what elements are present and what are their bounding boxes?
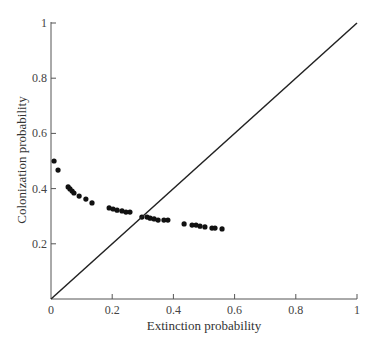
data-point: [197, 224, 202, 229]
data-point: [202, 224, 207, 229]
x-axis-label: Extinction probability: [147, 318, 261, 334]
data-point: [55, 168, 60, 173]
data-point: [83, 196, 88, 201]
x-tick-label: 0.8: [288, 304, 303, 316]
x-tick-label: 0.4: [166, 304, 181, 316]
plot-area: [51, 23, 357, 299]
data-point: [165, 217, 170, 222]
data-point: [51, 158, 56, 163]
y-tick-label: 0.4: [32, 183, 47, 195]
data-point: [114, 208, 119, 213]
data-point: [212, 225, 217, 230]
data-point: [182, 221, 187, 226]
data-point: [127, 209, 132, 214]
y-tick-label: 0.2: [32, 238, 47, 250]
x-tick-label: 1: [354, 304, 360, 316]
x-tick-label: 0.2: [105, 304, 120, 316]
scatter-plot: [0, 0, 379, 348]
y-axis-label: Colonization probability: [14, 96, 30, 223]
data-point: [71, 190, 76, 195]
data-point: [156, 217, 161, 222]
y-tick-label: 0.8: [32, 72, 47, 84]
diagonal-line: [51, 23, 357, 299]
y-tick-label: 0.6: [32, 127, 47, 139]
data-point: [219, 226, 224, 231]
x-tick-label: 0: [48, 304, 54, 316]
x-tick-label: 0.6: [227, 304, 242, 316]
data-point: [77, 193, 82, 198]
y-tick-label: 1: [41, 17, 47, 29]
data-point: [89, 200, 94, 205]
